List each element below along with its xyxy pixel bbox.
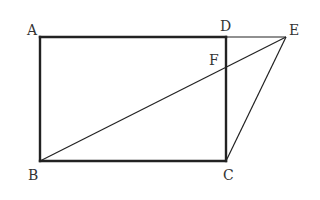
segment-be — [40, 37, 286, 161]
label-point-b: B — [28, 167, 38, 183]
label-point-d: D — [220, 18, 231, 34]
geometry-diagram: A D E F B C — [0, 0, 320, 200]
label-point-f: F — [209, 52, 219, 68]
label-point-e: E — [289, 22, 299, 38]
segment-ce — [226, 37, 286, 161]
label-point-a: A — [26, 22, 38, 38]
label-point-c: C — [223, 167, 234, 183]
